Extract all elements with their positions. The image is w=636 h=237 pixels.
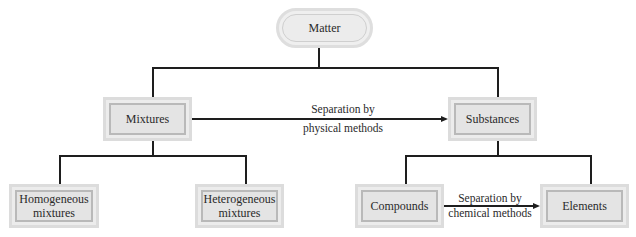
arrow-label-physical: Separation by physical methods: [283, 102, 403, 135]
node-label: Compounds: [370, 199, 428, 213]
arrowhead-icon: [441, 116, 448, 122]
connector-to-elements: [590, 155, 592, 184]
connector-to-mixtures: [152, 67, 154, 97]
connector-substances-horizontal: [405, 155, 591, 157]
node-compounds: Compounds: [355, 184, 444, 228]
connector-to-heterogeneous: [245, 155, 247, 184]
node-label: Homogeneous mixtures: [19, 192, 88, 220]
node-label: Substances: [466, 112, 519, 126]
connector-matter-down: [318, 47, 320, 68]
node-label: Mixtures: [126, 112, 169, 126]
connector-substances-down: [497, 140, 499, 156]
node-label: Matter: [309, 21, 341, 35]
node-label: Elements: [562, 199, 607, 213]
connector-mixtures-down: [152, 140, 154, 156]
node-mixtures: Mixtures: [103, 97, 192, 141]
connector-to-compounds: [405, 155, 407, 184]
node-homogeneous-mixtures: Homogeneous mixtures: [9, 184, 99, 228]
connector-mixtures-horizontal: [59, 155, 246, 157]
connector-to-substances: [497, 67, 499, 97]
node-elements: Elements: [540, 184, 629, 228]
node-substances: Substances: [448, 97, 537, 141]
node-heterogeneous-mixtures: Heterogeneous mixtures: [195, 184, 284, 228]
arrow-label-chemical: Separation by chemical methods: [440, 191, 540, 220]
connector-to-homogeneous: [59, 155, 61, 184]
node-label: Heterogeneous mixtures: [204, 192, 276, 220]
connector-level1-horizontal: [152, 67, 499, 69]
node-matter: Matter: [276, 8, 373, 48]
